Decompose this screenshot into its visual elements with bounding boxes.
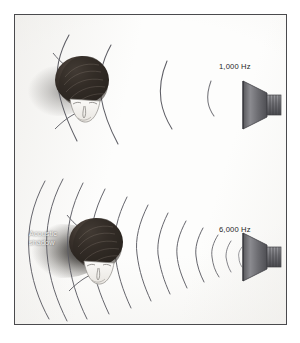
loudspeaker-icon-high (243, 233, 281, 281)
loudspeaker-icon-low (243, 81, 281, 129)
figure-frame: 1,000 Hz (14, 14, 287, 325)
panel-high-frequency: 6,000 Hz Acoustic shadow (15, 169, 288, 326)
panel-low-frequency: 1,000 Hz (15, 17, 288, 169)
head-top-view-low (53, 53, 109, 129)
frequency-label-high: 6,000 Hz (219, 225, 251, 234)
frequency-label-low: 1,000 Hz (219, 62, 251, 71)
acoustic-shadow-line-2: shadow (29, 238, 57, 247)
acoustic-shadow-line-1: Acoustic (29, 229, 57, 238)
low-frequency-scene (15, 17, 288, 169)
acoustic-shadow-annotation: Acoustic shadow (29, 229, 57, 248)
acoustic-shadow-figure: 1,000 Hz (0, 0, 300, 343)
